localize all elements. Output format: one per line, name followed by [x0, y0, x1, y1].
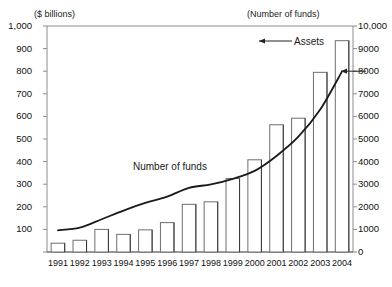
- bar-1997: [182, 204, 196, 252]
- bar-1991: [51, 243, 65, 252]
- plot-area: [0, 0, 392, 287]
- x-axis-label-2004: 2004: [328, 258, 356, 268]
- bar-1993: [95, 229, 109, 252]
- bar-1995: [139, 230, 153, 252]
- number-of-funds-annotation-label: Number of funds: [133, 161, 207, 172]
- assets-annotation-label: Assets: [294, 36, 324, 47]
- bars-group: [51, 41, 349, 252]
- bar-2001: [270, 125, 284, 252]
- bar-1996: [160, 223, 174, 252]
- fund-assets-chart: ($ billions) (Number of funds) 100200300…: [0, 0, 392, 287]
- axes-group: [43, 26, 357, 252]
- bar-2002: [292, 118, 306, 252]
- bar-1992: [73, 240, 87, 252]
- bar-1994: [117, 234, 131, 252]
- bar-2003: [313, 72, 327, 252]
- bar-1998: [204, 202, 218, 252]
- bar-1999: [226, 179, 240, 252]
- assets-annotation-arrow: [259, 38, 292, 43]
